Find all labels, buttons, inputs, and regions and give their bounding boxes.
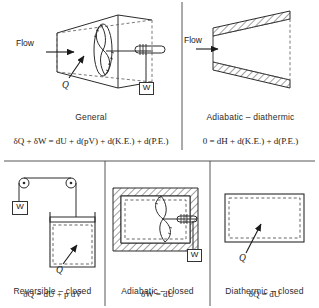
general-diagram (0, 0, 182, 150)
work-label-general: W (139, 82, 154, 95)
equation-adiabatic-diathermic: 0 = dH + d(K.E.) + d(P.E.) (182, 136, 319, 146)
panel-adiabatic-diathermic: Flow Adiabatic – diathermic (182, 0, 319, 150)
work-label-reversible: W (12, 201, 28, 215)
caption-general: General (0, 112, 182, 122)
panel-reversible-closed: W Q Reversible – closed (0, 161, 105, 308)
thermodynamics-figure: Flow Q W General (0, 0, 319, 308)
heat-label-diathermic: Q (239, 253, 246, 263)
flow-label-adiabatic-diathermic: Flow (184, 35, 202, 45)
panel-general: Flow Q W General (0, 0, 182, 150)
panel-adiabatic-closed: W Adiabatic – closed (105, 161, 210, 308)
panel-diathermic-closed: Q Diathermic – closed (210, 161, 319, 308)
heat-label-general: Q (62, 80, 69, 90)
equation-adiabatic-closed: δW = dU (105, 289, 210, 299)
equation-diathermic-closed-text: δQ = dU (249, 289, 280, 299)
equation-general: δQ + δW = dU + d(pV) + d(K.E.) + d(P.E.) (0, 136, 182, 146)
equation-reversible-closed: δQ = dU + p dV (0, 289, 105, 299)
adiabatic-diathermic-diagram (182, 0, 319, 150)
equation-reversible-closed-text: δQ = dU + p dV (23, 289, 82, 299)
equation-adiabatic-closed-text: δW = dU (141, 289, 174, 299)
caption-adiabatic-diathermic: Adiabatic – diathermic (182, 112, 319, 122)
equation-general-text: δQ + δW = dU + d(pV) + d(K.E.) + d(P.E.) (13, 136, 168, 146)
heat-label-reversible: Q (56, 265, 63, 275)
equation-diathermic-closed: δQ = dU (210, 289, 319, 299)
flow-label-general: Flow (16, 38, 34, 48)
equation-adiabatic-diathermic-text: 0 = dH + d(K.E.) + d(P.E.) (203, 136, 299, 146)
work-label-adiabatic-closed: W (187, 249, 202, 262)
